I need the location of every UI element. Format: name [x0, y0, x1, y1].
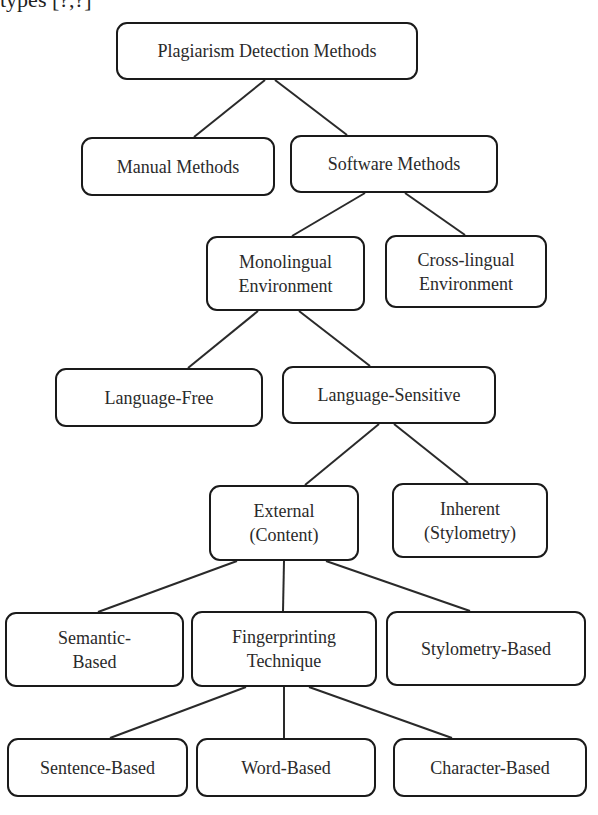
node-external-content: External (Content) [209, 485, 359, 561]
node-sentence-based: Sentence-Based [7, 738, 188, 797]
connector-software-to-crosslingual [405, 193, 465, 235]
connector-language_sensitive-to-inherent [394, 424, 468, 483]
node-character-based: Character-Based [393, 738, 587, 797]
connector-fingerprinting-to-sentence [110, 687, 246, 738]
node-label-line2: Environment [239, 274, 333, 298]
node-cross-lingual-environment: Cross-lingual Environment [385, 235, 547, 308]
node-label: Word-Based [241, 756, 331, 780]
connector-external-to-stylometry_based [326, 561, 470, 611]
node-label-line1: Cross-lingual [418, 248, 515, 272]
node-label: Plagiarism Detection Methods [158, 39, 377, 63]
node-label: Language-Free [105, 386, 214, 410]
connector-external-to-semantic [98, 561, 237, 612]
connector-language_sensitive-to-external [305, 424, 379, 485]
node-software-methods: Software Methods [290, 135, 498, 193]
node-label-line2: Environment [419, 272, 513, 296]
node-label: Character-Based [430, 756, 550, 780]
node-label-line2: Technique [247, 649, 322, 673]
connector-root-to-software [275, 80, 347, 135]
connector-root-to-manual [194, 80, 265, 137]
node-label-line2: (Stylometry) [424, 521, 516, 545]
node-label-line1: Monolingual [239, 250, 332, 274]
connector-fingerprinting-to-character [309, 687, 452, 738]
node-label-line1: Semantic- [58, 626, 131, 650]
node-label-line1: Fingerprinting [232, 625, 336, 649]
node-label-line1: External [254, 499, 315, 523]
node-fingerprinting-technique: Fingerprinting Technique [191, 611, 377, 687]
node-label-line1: Inherent [440, 497, 500, 521]
node-semantic-based: Semantic- Based [5, 612, 184, 687]
node-language-free: Language-Free [55, 368, 263, 427]
node-label-line2: (Content) [250, 523, 319, 547]
node-word-based: Word-Based [196, 738, 376, 797]
node-plagiarism-detection-methods: Plagiarism Detection Methods [116, 22, 418, 80]
node-stylometry-based: Stylometry-Based [386, 611, 586, 686]
node-label-line2: Based [73, 650, 117, 674]
connector-external-to-fingerprinting [283, 561, 284, 611]
connector-monolingual-to-language_sensitive [299, 311, 370, 366]
connector-software-to-monolingual [292, 193, 365, 236]
node-manual-methods: Manual Methods [81, 137, 275, 196]
node-label: Manual Methods [117, 155, 239, 179]
node-label: Software Methods [328, 152, 460, 176]
node-monolingual-environment: Monolingual Environment [206, 236, 365, 311]
node-label: Stylometry-Based [421, 637, 551, 661]
connector-monolingual-to-language_free [188, 311, 258, 368]
node-label: Sentence-Based [40, 756, 155, 780]
node-label: Language-Sensitive [318, 383, 461, 407]
node-inherent-stylometry: Inherent (Stylometry) [392, 483, 548, 558]
node-language-sensitive: Language-Sensitive [282, 366, 496, 424]
